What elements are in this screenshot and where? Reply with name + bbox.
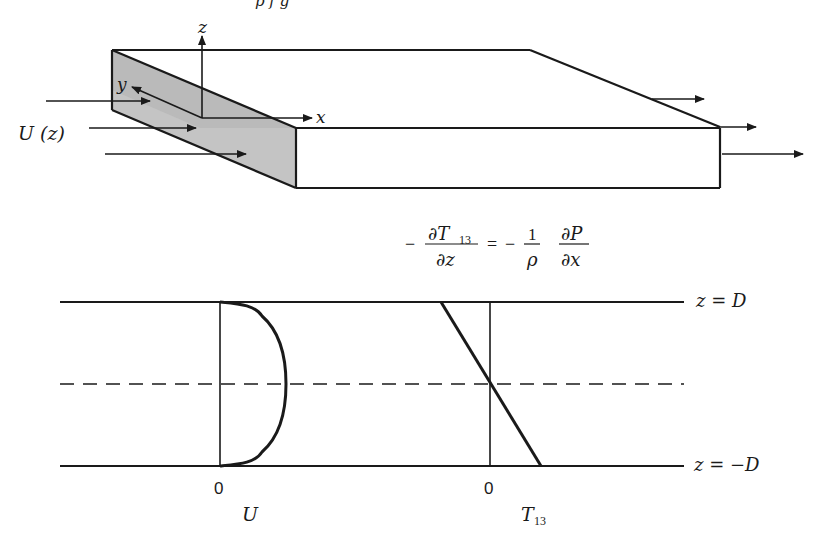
- svg-text:ρ: ρ: [526, 249, 538, 270]
- x-axis-label: x: [316, 107, 326, 127]
- z-axis-label: z: [197, 17, 208, 37]
- svg-text:1: 1: [528, 225, 537, 244]
- svg-text:−: −: [405, 234, 415, 254]
- caption-partial: p f g: [255, 0, 289, 10]
- u-axis-label: U: [242, 503, 259, 525]
- channel-flow-diagram: p f g z y x U (z): [0, 0, 821, 543]
- momentum-equation: − ∂T 13 ∂z = − 1 ρ ∂P ∂x: [405, 223, 589, 270]
- svg-text:∂z: ∂z: [436, 249, 455, 270]
- outflow-arrows: [652, 99, 803, 154]
- svg-text:13: 13: [459, 233, 471, 247]
- svg-text:=: =: [487, 234, 497, 254]
- svg-text:∂P: ∂P: [561, 223, 583, 244]
- t13-zero-label: 0: [484, 479, 493, 498]
- y-axis-label: y: [116, 74, 127, 94]
- svg-text:−: −: [505, 234, 515, 254]
- svg-text:∂T: ∂T: [428, 223, 451, 244]
- t13-axis-label: T: [521, 503, 535, 525]
- inflow-label: U (z): [18, 122, 65, 144]
- u-zero-label: 0: [214, 479, 223, 498]
- t13-axis-subscript: 13: [534, 514, 546, 528]
- slab-3d: [112, 50, 720, 188]
- svg-text:∂x: ∂x: [561, 249, 580, 270]
- profile-plot: [60, 302, 684, 466]
- top-wall-label: z = D: [695, 290, 747, 311]
- bottom-wall-label: z = −D: [693, 454, 760, 475]
